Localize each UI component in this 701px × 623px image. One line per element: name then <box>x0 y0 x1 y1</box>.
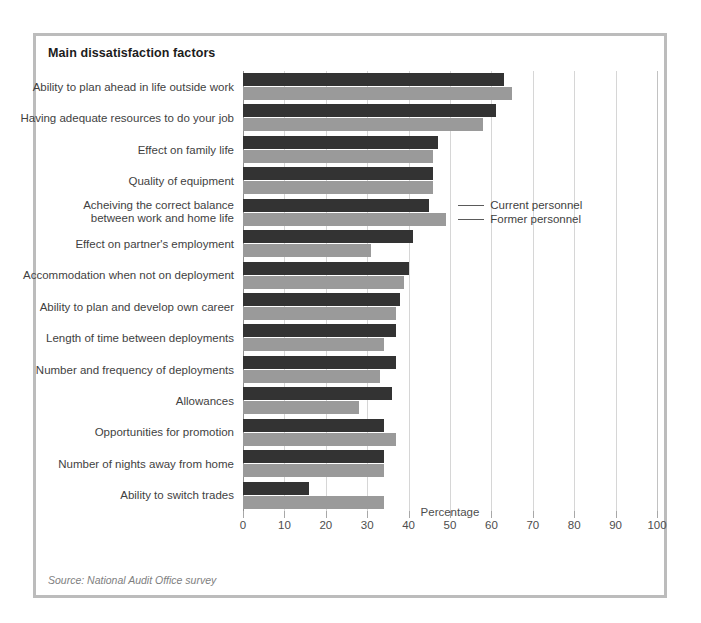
category-label: Number of nights away from home <box>58 457 234 470</box>
x-tick-label-10: 10 <box>278 519 291 531</box>
bar-former-personnel <box>243 213 446 226</box>
x-tick-label-70: 70 <box>526 519 539 531</box>
chart-row: Number and frequency of deployments <box>243 354 657 385</box>
chart-row: Effect on partner's employment <box>243 228 657 259</box>
chart-row: Quality of equipment <box>243 165 657 196</box>
bar-former-personnel <box>243 276 404 289</box>
x-tick-100 <box>657 511 658 518</box>
bar-current-personnel <box>243 199 429 212</box>
chart-row: Ability to plan ahead in life outside wo… <box>243 71 657 102</box>
source-note: Source: National Audit Office survey <box>48 574 216 586</box>
bar-former-personnel <box>243 244 371 257</box>
chart-plot-area: 0102030405060708090100Ability to plan ah… <box>243 71 657 511</box>
figure-title: Main dissatisfaction factors <box>48 46 215 60</box>
legend-former-personnel: Former personnel <box>458 213 581 226</box>
category-label: Having adequate resources to do your job <box>20 112 234 125</box>
category-label: Quality of equipment <box>129 174 234 187</box>
gridline-100 <box>657 71 658 511</box>
bar-current-personnel <box>243 356 396 369</box>
x-tick-label-60: 60 <box>485 519 498 531</box>
bar-former-personnel <box>243 118 483 131</box>
category-label: Number and frequency of deployments <box>36 363 234 376</box>
bar-current-personnel <box>243 387 392 400</box>
bar-former-personnel <box>243 401 359 414</box>
legend-label: Current personnel <box>490 199 582 211</box>
bar-former-personnel <box>243 150 433 163</box>
bar-former-personnel <box>243 464 384 477</box>
legend-label: Former personnel <box>490 213 581 225</box>
chart-row: Effect on family life <box>243 134 657 165</box>
legend-leader-line <box>458 219 484 220</box>
figure-page: Main dissatisfaction factors 01020304050… <box>0 0 701 623</box>
x-tick-label-50: 50 <box>444 519 457 531</box>
category-label: Length of time between deployments <box>46 332 234 345</box>
bar-current-personnel <box>243 262 409 275</box>
chart-row: Length of time between deployments <box>243 322 657 353</box>
chart-row: Allowances <box>243 385 657 416</box>
bar-current-personnel <box>243 167 433 180</box>
category-label: Ability to plan ahead in life outside wo… <box>33 80 234 93</box>
legend-leader-line <box>458 205 484 206</box>
category-label: Effect on partner's employment <box>75 237 234 250</box>
x-tick-label-20: 20 <box>319 519 332 531</box>
bar-former-personnel <box>243 370 380 383</box>
category-label: Accommodation when not on deployment <box>23 269 234 282</box>
bar-current-personnel <box>243 324 396 337</box>
bar-current-personnel <box>243 136 438 149</box>
category-label: Ability to plan and develop own career <box>40 300 234 313</box>
bar-current-personnel <box>243 482 309 495</box>
bar-current-personnel <box>243 293 400 306</box>
legend-current-personnel: Current personnel <box>458 199 582 212</box>
x-tick-label-40: 40 <box>402 519 415 531</box>
bar-former-personnel <box>243 307 396 320</box>
bar-former-personnel <box>243 87 512 100</box>
bar-current-personnel <box>243 73 504 86</box>
bar-current-personnel <box>243 230 413 243</box>
bar-former-personnel <box>243 338 384 351</box>
bar-former-personnel <box>243 433 396 446</box>
bar-current-personnel <box>243 104 496 117</box>
chart-row: Acheiving the correct balancebetween wor… <box>243 197 657 228</box>
chart-row: Ability to plan and develop own career <box>243 291 657 322</box>
bar-current-personnel <box>243 450 384 463</box>
bar-former-personnel <box>243 181 433 194</box>
x-tick-label-90: 90 <box>609 519 622 531</box>
x-tick-label-0: 0 <box>240 519 246 531</box>
x-tick-label-100: 100 <box>647 519 666 531</box>
figure-frame: Main dissatisfaction factors 01020304050… <box>33 33 667 598</box>
x-tick-label-80: 80 <box>568 519 581 531</box>
chart-row: Number of nights away from home <box>243 448 657 479</box>
chart-row: Accommodation when not on deployment <box>243 260 657 291</box>
x-axis-title: Percentage <box>243 506 657 518</box>
chart-row: Having adequate resources to do your job <box>243 102 657 133</box>
chart-row: Opportunities for promotion <box>243 417 657 448</box>
bar-current-personnel <box>243 419 384 432</box>
category-label: Ability to switch trades <box>120 489 234 502</box>
x-tick-label-30: 30 <box>361 519 374 531</box>
category-label: Opportunities for promotion <box>95 426 234 439</box>
category-label: Allowances <box>176 394 234 407</box>
category-label: Effect on family life <box>138 143 234 156</box>
category-label: Acheiving the correct balancebetween wor… <box>83 199 234 225</box>
